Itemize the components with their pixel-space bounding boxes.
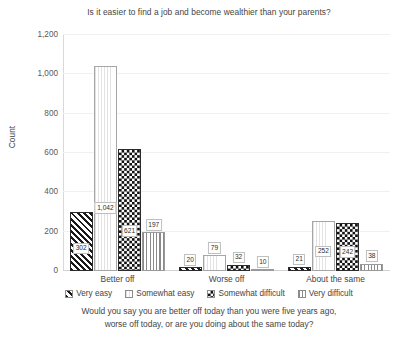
y-tick-label: 1,000 (38, 69, 59, 78)
gridline: 1,200 (63, 34, 390, 35)
legend-item[interactable]: Somewhat difficult (207, 289, 284, 298)
bar-data-label: 38 (366, 250, 378, 262)
legend-swatch-icon (207, 290, 215, 298)
y-tick-label: 200 (44, 226, 58, 235)
bar-data-label: 79 (208, 242, 220, 254)
category-label: About the same (306, 274, 365, 284)
y-tick-label: 800 (44, 108, 58, 117)
bar (142, 232, 165, 271)
legend-label: Very difficult (309, 289, 353, 298)
y-axis-title: Count (7, 107, 17, 167)
bar (360, 264, 383, 271)
y-tick-label: 0 (53, 266, 58, 275)
bar (288, 267, 311, 271)
legend-item[interactable]: Very difficult (298, 289, 353, 298)
bar-chart: Is it easier to find a job and become we… (0, 0, 418, 342)
bar-data-label: 1,042 (95, 202, 116, 214)
bar-data-label: 252 (315, 246, 331, 258)
legend-label: Somewhat easy (136, 289, 194, 298)
bar-data-label: 242 (340, 246, 356, 258)
bar (203, 255, 226, 271)
bar (179, 267, 202, 271)
category-label: Worse off (209, 274, 245, 284)
bar (227, 265, 250, 271)
bar (251, 269, 274, 271)
y-tick-label: 1,200 (38, 30, 59, 39)
bar (70, 212, 93, 271)
bar (118, 149, 141, 271)
legend-swatch-icon (65, 290, 73, 298)
y-tick-label: 600 (44, 148, 58, 157)
legend-swatch-icon (298, 290, 306, 298)
legend-item[interactable]: Somewhat easy (125, 289, 194, 298)
bar-data-label: 197 (146, 219, 162, 231)
bar-data-label: 10 (257, 256, 269, 268)
bar-data-label: 21 (293, 254, 305, 266)
bar-data-label: 621 (122, 225, 138, 237)
bar (94, 66, 117, 271)
caption-line-2: worse off today, or are you doing about … (0, 318, 418, 331)
chart-legend: Very easySomewhat easySomewhat difficult… (0, 289, 418, 298)
caption-line-1: Would you say you are better off today t… (0, 305, 418, 318)
category-label: Better off (101, 274, 135, 284)
legend-swatch-icon (125, 290, 133, 298)
bar-data-label: 20 (184, 254, 196, 266)
legend-item[interactable]: Very easy (65, 289, 112, 298)
y-tick-label: 400 (44, 187, 58, 196)
bar-data-label: 32 (233, 252, 245, 264)
legend-label: Somewhat difficult (218, 289, 284, 298)
bar-data-label: 302 (73, 243, 89, 255)
plot-area: 02004006008001,0001,200 3021,04262119720… (63, 35, 390, 271)
chart-title: Is it easier to find a job and become we… (0, 7, 418, 17)
legend-label: Very easy (76, 289, 112, 298)
chart-caption: Would you say you are better off today t… (0, 305, 418, 330)
